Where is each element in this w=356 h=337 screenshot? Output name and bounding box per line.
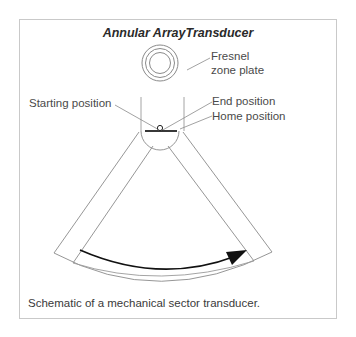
label-fresnel-line1: Fresnel bbox=[211, 50, 249, 63]
housing-lines bbox=[141, 97, 184, 131]
fresnel-zone-plate-icon bbox=[142, 45, 178, 81]
figure-title: Annular ArrayTransducer bbox=[0, 26, 356, 40]
pivot-icon bbox=[157, 125, 162, 130]
fresnel-leader-line bbox=[187, 58, 210, 70]
transducer-schematic bbox=[0, 0, 356, 337]
leader-lines bbox=[115, 102, 212, 131]
sector-fan bbox=[54, 132, 272, 281]
arrowhead-icon bbox=[226, 250, 247, 265]
label-fresnel-line2: zone plate bbox=[211, 64, 264, 77]
sweep-arrow bbox=[80, 250, 236, 269]
label-home-position: Home position bbox=[212, 110, 286, 123]
figure-caption: Schematic of a mechanical sector transdu… bbox=[28, 297, 260, 309]
label-starting-position: Starting position bbox=[29, 97, 111, 110]
label-end-position: End position bbox=[212, 95, 275, 108]
pivot-housing-arc bbox=[141, 131, 179, 150]
